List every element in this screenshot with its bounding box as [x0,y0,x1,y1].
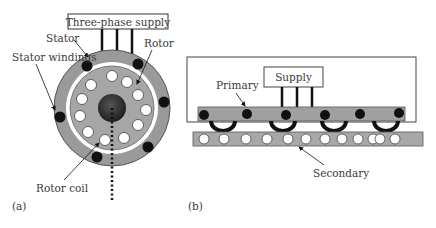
panel-b-linear-motor: Supply [187,57,423,212]
stator-label: Stator [46,32,80,44]
supply-box: Supply [264,67,323,87]
rotor-label: Rotor [144,37,175,49]
panel-b-tag: (b) [188,200,203,212]
primary [198,107,405,121]
panel-a-tag: (a) [12,200,26,212]
rotor-coil-label: Rotor coil [36,182,89,194]
figure: Three-phase supply [0,0,436,228]
primary-label: Primary [216,79,259,91]
supply-label: Supply [275,71,312,83]
stator-windings-label: Stator windings [12,51,97,63]
secondary-label: Secondary [313,167,369,179]
three-phase-supply-box: Three-phase supply [66,14,170,29]
panel-a-induction-motor: Three-phase supply [12,14,175,212]
three-phase-supply-label: Three-phase supply [66,16,170,28]
